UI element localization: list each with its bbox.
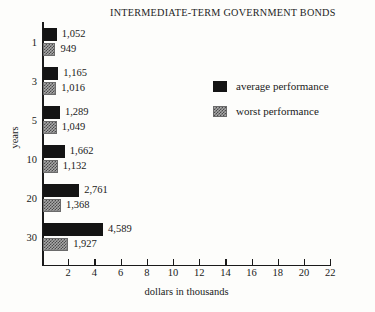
x-axis-tick-label: 20 (292, 267, 316, 278)
legend-label-average: average performance (236, 80, 329, 92)
bar-value-label: 949 (60, 43, 76, 54)
x-axis-tick (252, 259, 253, 265)
bar-worst-5y (43, 121, 57, 134)
x-axis-tick-label: 18 (266, 267, 290, 278)
x-axis-tick (330, 259, 331, 265)
x-axis-title: dollars in thousands (42, 286, 331, 297)
bar-worst-1y (43, 43, 55, 56)
x-axis-tick-label: 10 (161, 267, 185, 278)
x-axis-tick (94, 259, 95, 265)
x-axis-tick-label: 22 (318, 267, 342, 278)
x-axis-tick-label: 12 (187, 267, 211, 278)
x-axis-tick (225, 259, 226, 265)
x-axis-tick (68, 259, 69, 265)
x-axis-tick (147, 259, 148, 265)
bar-worst-20y (43, 199, 61, 212)
bar-value-label: 1,662 (70, 145, 94, 156)
bar-avg-20y (43, 184, 79, 197)
bar-value-label: 1,368 (66, 199, 90, 210)
y-axis-tick-label: 10 (8, 154, 37, 165)
y-axis-tick-label: 5 (8, 115, 37, 126)
x-axis-tick-label: 4 (82, 267, 106, 278)
x-axis-tick-label: 14 (213, 267, 237, 278)
legend-swatch-average-icon (213, 81, 227, 92)
bar-worst-3y (43, 82, 56, 95)
chart-title: INTERMEDIATE-TERM GOVERNMENT BONDS (110, 7, 340, 18)
bar-avg-30y (43, 223, 103, 236)
x-axis-tick (278, 259, 279, 265)
bar-value-label: 1,052 (62, 28, 86, 39)
bar-value-label: 4,589 (108, 223, 132, 234)
x-axis-tick-label: 8 (135, 267, 159, 278)
bar-worst-30y (43, 238, 68, 251)
legend-item-worst: worst performance (213, 105, 329, 117)
y-axis-tick-label: 30 (8, 232, 37, 243)
legend-swatch-worst-icon (213, 106, 227, 117)
bar-value-label: 1,016 (61, 82, 85, 93)
y-axis-tick-label: 20 (8, 193, 37, 204)
bar-value-label: 1,927 (73, 238, 97, 249)
chart-legend: average performance worst performance (213, 80, 329, 130)
bar-avg-10y (43, 145, 65, 158)
bar-value-label: 1,049 (62, 121, 86, 132)
x-axis-line (42, 265, 331, 267)
bar-worst-10y (43, 160, 58, 173)
bar-avg-5y (43, 106, 60, 119)
y-axis-tick-label: 3 (8, 76, 37, 87)
x-axis-tick (304, 259, 305, 265)
x-axis-tick (173, 259, 174, 265)
bar-value-label: 1,165 (63, 67, 87, 78)
bar-avg-1y (43, 28, 57, 41)
bar-avg-3y (43, 67, 58, 80)
x-axis-tick-label: 16 (240, 267, 264, 278)
x-axis-tick-label: 2 (56, 267, 80, 278)
y-axis-tick-label: 1 (8, 37, 37, 48)
x-axis-tick (199, 259, 200, 265)
x-axis-tick (121, 259, 122, 265)
legend-label-worst: worst performance (236, 105, 319, 117)
bar-value-label: 2,761 (84, 184, 108, 195)
bar-value-label: 1,132 (63, 160, 87, 171)
bar-chart: INTERMEDIATE-TERM GOVERNMENT BONDS years… (0, 0, 375, 312)
bar-value-label: 1,289 (65, 106, 89, 117)
legend-item-average: average performance (213, 80, 329, 92)
x-axis-tick-label: 6 (109, 267, 133, 278)
